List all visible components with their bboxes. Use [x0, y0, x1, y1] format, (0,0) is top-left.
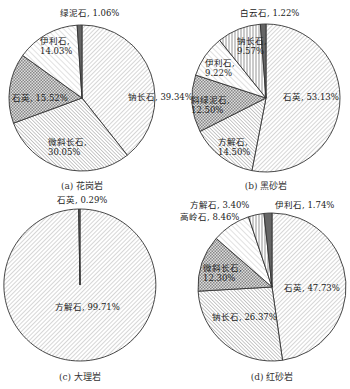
slice-label-a-0: 钠长石, 39.34%	[128, 92, 193, 102]
slice-label-a-4: 绿泥石, 1.06%	[60, 8, 119, 18]
pie-chart-d: 石英, 47.73%钠长石, 26.37%微斜长石,12.30%高岭石, 8.4…	[180, 200, 346, 361]
slice-label-d-3: 高岭石, 8.46%	[180, 212, 239, 222]
caption-a: (a) 花岗岩	[61, 180, 103, 191]
slice-label-b-1: 方解石,14.50%	[218, 137, 250, 157]
slice-label-b-0: 石英, 53.13%	[283, 92, 339, 102]
pie-chart-b: 石英, 53.13%方解石,14.50%斜绿泥石,12.50%伊利石,9.22%…	[191, 8, 340, 172]
slice-label-d-1: 钠长石, 26.37%	[212, 312, 277, 322]
pie-slice-d-1	[198, 287, 282, 361]
caption-d: (d) 红砂岩	[251, 371, 294, 382]
slice-label-b-5: 白云石, 1.22%	[240, 8, 299, 18]
slice-label-b-4: 钠长石,9.57%	[237, 36, 267, 56]
pies-group: 钠长石, 39.34%微斜长石,30.05%石英, 15.52%伊利石,14.0…	[4, 8, 346, 361]
slice-label-d-4: 方解石, 3.40%	[190, 200, 249, 210]
slice-label-b-3: 伊利石,9.22%	[205, 58, 235, 78]
slice-label-d-0: 石英, 47.73%	[284, 283, 340, 293]
pie-chart-c: 方解石, 99.71%石英, 0.29%	[4, 195, 156, 361]
slice-label-c-1: 石英, 0.29%	[57, 195, 107, 205]
slice-label-a-3: 伊利石,14.03%	[40, 36, 72, 56]
caption-c: (c) 大理岩	[59, 371, 101, 382]
pie-chart-a: 钠长石, 39.34%微斜长石,30.05%石英, 15.52%伊利石,14.0…	[9, 8, 193, 171]
caption-b: (b) 黑砂岩	[245, 180, 288, 191]
slice-label-a-2: 石英, 15.52%	[12, 93, 68, 103]
pie-charts-figure: 钠长石, 39.34%微斜长石,30.05%石英, 15.52%伊利石,14.0…	[0, 0, 350, 389]
slice-label-d-5: 伊利石, 1.74%	[275, 200, 334, 210]
slice-label-c-0: 方解石, 99.71%	[55, 302, 120, 312]
